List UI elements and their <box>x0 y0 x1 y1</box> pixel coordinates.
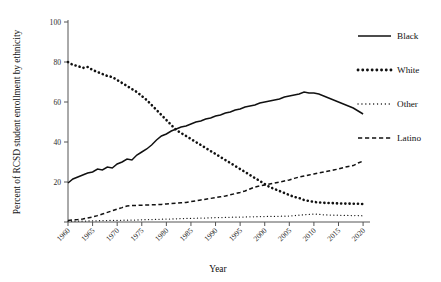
series-line-other <box>68 214 363 221</box>
ethnicity-enrollment-line-chart: 20406080100 1960196519701975198019851990… <box>0 0 441 282</box>
x-tick-label: 2015 <box>325 226 342 243</box>
legend-label-other: Other <box>397 99 418 109</box>
series-line-black <box>68 92 363 183</box>
y-tick-label: 40 <box>53 138 61 147</box>
x-tick-label: 1965 <box>79 226 96 243</box>
x-tick-label: 1975 <box>129 226 146 243</box>
x-axis: 1960196519701975198019851990199520002005… <box>55 222 370 243</box>
x-tick-label: 1995 <box>227 226 244 243</box>
chart-figure: 20406080100 1960196519701975198019851990… <box>0 0 441 282</box>
legend: BlackWhiteOtherLatino <box>358 31 421 143</box>
x-tick-label: 1985 <box>178 226 195 243</box>
y-axis-title: Percent of RCSD student enrollment by et… <box>12 30 22 215</box>
x-tick-label: 2000 <box>252 226 269 243</box>
x-tick-label: 1970 <box>104 226 121 243</box>
x-tick-label: 1990 <box>202 226 219 243</box>
x-tick-label: 2020 <box>350 226 367 243</box>
x-tick-label: 1960 <box>55 226 72 243</box>
legend-label-white: White <box>397 65 419 75</box>
y-axis: 20406080100 <box>50 18 68 222</box>
x-tick-label: 1980 <box>153 226 170 243</box>
legend-label-latino: Latino <box>397 133 421 143</box>
legend-label-black: Black <box>397 31 419 41</box>
y-tick-label: 80 <box>53 58 61 67</box>
y-tick-label: 60 <box>53 98 61 107</box>
series-line-latino <box>68 161 363 220</box>
x-tick-label: 2005 <box>276 226 293 243</box>
y-tick-label: 20 <box>53 178 61 187</box>
x-axis-ticks: 1960196519701975198019851990199520002005… <box>55 222 367 243</box>
y-tick-label: 100 <box>50 18 62 27</box>
series-line-white <box>68 62 363 204</box>
x-axis-title: Year <box>209 264 227 274</box>
x-tick-label: 2010 <box>301 226 318 243</box>
data-series-group <box>68 62 363 221</box>
y-axis-ticks: 20406080100 <box>50 18 68 222</box>
